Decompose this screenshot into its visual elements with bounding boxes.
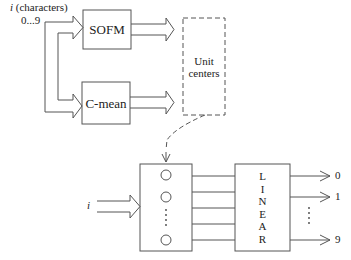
input-variable: i	[10, 1, 13, 13]
centers-connector	[166, 115, 205, 150]
linear-letter: A	[259, 220, 267, 233]
rbf-unit-circle	[161, 192, 171, 202]
linear-letter: R	[259, 233, 266, 246]
bottom-input-label: i	[87, 200, 90, 211]
linear-letter: L	[259, 170, 266, 183]
rbf-unit-circle	[161, 235, 171, 245]
linear-letter: I	[261, 183, 265, 196]
output-label-9: 9	[335, 234, 341, 245]
unit-centers-label-line1: Unit	[183, 56, 225, 67]
cmean-output-arrow	[130, 91, 174, 114]
sofm-label: SOFM	[83, 23, 131, 36]
linear-letter: N	[259, 195, 267, 208]
output-arrows	[290, 171, 330, 245]
ellipsis-dot	[308, 207, 310, 209]
diagram-canvas	[0, 0, 351, 260]
unit-centers-label-line2: centers	[183, 68, 225, 79]
sofm-output-arrow	[131, 18, 174, 41]
ellipsis-dot	[165, 209, 167, 211]
linear-label: L I N E A R	[235, 170, 290, 245]
bottom-input-arrow	[97, 195, 140, 218]
input-description: (characters)	[16, 1, 68, 13]
linear-letter: E	[259, 208, 266, 221]
input-range: 0...9	[21, 15, 40, 26]
top-input-label: i (characters)	[10, 2, 68, 13]
output-label-0: 0	[335, 170, 341, 181]
output-label-1: 1	[335, 191, 341, 202]
rbf-unit-circle	[161, 170, 171, 180]
cmean-label: C-mean	[82, 97, 130, 110]
hidden-to-linear-lines	[192, 176, 235, 240]
rbf-layer-box	[140, 164, 192, 251]
input-split-arrow	[45, 16, 83, 118]
